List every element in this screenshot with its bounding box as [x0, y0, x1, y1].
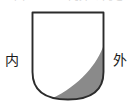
label-inner: 内 [5, 53, 19, 67]
label-outer: 外 [113, 53, 127, 67]
figure-root: 図 ２．２ 内外の向き 内 外 [0, 0, 135, 107]
